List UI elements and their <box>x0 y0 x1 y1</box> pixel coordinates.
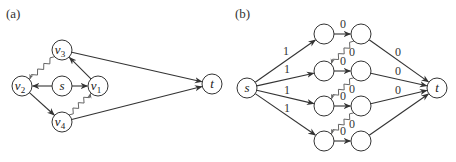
node-circle-a4 <box>314 131 334 151</box>
node-v2: v2 <box>12 76 32 96</box>
node-circle-b3 <box>351 96 371 116</box>
node-label-t: t <box>210 76 214 91</box>
node-a3 <box>314 96 334 116</box>
edge-label-s-a4: 1 <box>284 101 290 115</box>
node-v1: v1 <box>88 76 108 96</box>
edge-label-b3-a4: 0 <box>349 117 355 131</box>
node-s: s <box>52 76 72 96</box>
edge-label-b2-a3: 0 <box>349 82 355 96</box>
edge-label-a2-b2: 0 <box>340 54 346 68</box>
diagram-canvas: (a) (b) v3v2sv1v4t 11110000000000st <box>0 0 456 162</box>
node-label-s: s <box>59 78 64 93</box>
node-a4 <box>314 131 334 151</box>
node-b3 <box>351 96 371 116</box>
edge-label-a3-b3: 0 <box>340 89 346 103</box>
edge-label-b1-t: 0 <box>395 45 401 59</box>
edge-label-b3-t: 0 <box>395 83 401 97</box>
edge-b4-t <box>369 94 428 135</box>
edge-v3-v2 <box>30 57 55 79</box>
node-label-t: t <box>435 80 439 95</box>
edge-label-b2-t: 0 <box>395 64 401 78</box>
node-b1 <box>351 24 371 44</box>
edge-v2-v4 <box>29 93 54 115</box>
edge-label-s-a2: 1 <box>284 62 290 76</box>
node-b2 <box>351 61 371 81</box>
edge-label-s-a3: 1 <box>284 83 290 97</box>
node-circle-a2 <box>314 61 334 81</box>
panel-b-label: (b) <box>235 6 250 21</box>
panel-a-label: (a) <box>6 6 20 21</box>
edge-label-s-a1: 1 <box>283 44 289 58</box>
node-t: t <box>427 78 447 98</box>
node-circle-b1 <box>351 24 371 44</box>
edge-label-a1-b1: 0 <box>340 17 346 31</box>
node-circle-b4 <box>351 131 371 151</box>
edge-label-b1-a2: 0 <box>349 45 355 59</box>
node-label-s: s <box>244 80 249 95</box>
node-a2 <box>314 61 334 81</box>
node-circle-a1 <box>314 24 334 44</box>
node-b4 <box>351 131 371 151</box>
node-circle-a3 <box>314 96 334 116</box>
node-v4: v4 <box>52 112 72 132</box>
edge-label-a4-b4: 0 <box>340 124 346 138</box>
node-circle-b2 <box>351 61 371 81</box>
edge-v4-v1 <box>69 93 91 115</box>
panel-b-graph: 11110000000000st <box>237 17 447 151</box>
node-s: s <box>237 78 257 98</box>
panel-a-graph: v3v2sv1v4t <box>12 40 222 132</box>
node-t: t <box>202 74 222 94</box>
edge-v1-v3 <box>69 57 91 79</box>
node-v3: v3 <box>52 40 72 60</box>
node-a1 <box>314 24 334 44</box>
